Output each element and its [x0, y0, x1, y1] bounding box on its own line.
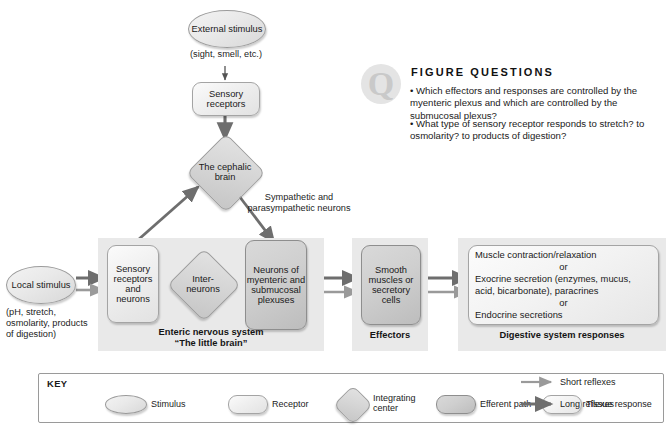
cephalic-brain-label: The cephalic brain — [198, 162, 252, 182]
interneurons-label: Inter- neurons — [178, 274, 228, 294]
key-label-short-reflexes: Short reflexes — [560, 377, 616, 387]
key-label-long-reflexes: Long reflexes — [560, 399, 614, 409]
